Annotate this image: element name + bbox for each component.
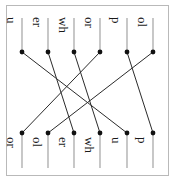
top-label-6: ol xyxy=(136,17,149,27)
node-top-2[interactable] xyxy=(46,50,51,55)
node-top-4[interactable] xyxy=(98,50,103,55)
connection-wh[interactable] xyxy=(74,52,100,133)
top-nodes xyxy=(20,50,156,55)
node-top-5[interactable] xyxy=(125,50,130,55)
bottom-label-4: wh xyxy=(83,137,96,153)
node-bottom-4[interactable] xyxy=(98,131,103,136)
connection-lines xyxy=(22,52,153,133)
top-label-2: er xyxy=(31,17,44,27)
top-label-4: or xyxy=(83,17,96,28)
node-top-6[interactable] xyxy=(151,50,156,55)
connection-or[interactable] xyxy=(22,52,100,133)
connection-u[interactable] xyxy=(22,52,127,133)
node-top-1[interactable] xyxy=(20,50,25,55)
bottom-label-1: or xyxy=(5,137,18,148)
node-bottom-2[interactable] xyxy=(46,131,51,136)
bottom-label-3: er xyxy=(57,137,70,147)
top-label-5: p xyxy=(110,17,123,24)
diagram-canvas: u er wh or p ol or ol er wh u p xyxy=(0,0,176,183)
connection-ol[interactable] xyxy=(48,52,153,133)
top-label-3: wh xyxy=(57,17,70,33)
bottom-label-5: u xyxy=(110,137,123,144)
connection-p[interactable] xyxy=(127,52,153,133)
node-bottom-6[interactable] xyxy=(151,131,156,136)
bottom-label-2: ol xyxy=(31,137,44,147)
node-bottom-3[interactable] xyxy=(72,131,77,136)
bottom-label-6: p xyxy=(136,137,149,144)
node-top-3[interactable] xyxy=(72,50,77,55)
node-bottom-5[interactable] xyxy=(125,131,130,136)
bottom-nodes xyxy=(20,131,156,136)
top-label-1: u xyxy=(5,17,18,24)
node-bottom-1[interactable] xyxy=(20,131,25,136)
